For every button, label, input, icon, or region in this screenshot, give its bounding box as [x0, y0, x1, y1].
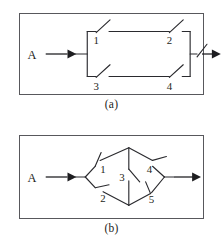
figure-panel-b: 1 2 3 4 5 A B (b) [0, 124, 223, 249]
switch-label-5-b: 5 [149, 193, 154, 205]
panel-b-circuit-diagram: 1 2 3 4 5 A B [20, 136, 203, 218]
panel-a-caption: (a) [0, 98, 223, 110]
figure-panel-a: 1 2 3 4 A B (a) [0, 0, 223, 122]
output-switch-blade-a[interactable] [197, 44, 207, 57]
switch-label-3-b: 3 [119, 171, 124, 183]
panel-a-frame: 1 2 3 4 A B [19, 13, 204, 95]
fork-upper-arm-b [85, 166, 95, 177]
upper-left-conductor-b [100, 148, 129, 161]
switch-label-4-b: 4 [147, 163, 153, 175]
fork-lower-arm-b [85, 177, 95, 188]
input-arrow-head-b [67, 173, 76, 182]
switch-4-blade[interactable] [169, 65, 183, 78]
terminal-label-a-input-b: A [27, 171, 36, 185]
switch-label-4: 4 [167, 80, 173, 92]
upper-right-conductor-b [129, 148, 153, 161]
switch-1-blade[interactable] [96, 20, 110, 33]
panel-b-frame: 1 2 3 4 5 A B [19, 135, 204, 219]
switch-3-blade[interactable] [96, 65, 110, 78]
switch-label-2-b: 2 [100, 192, 105, 204]
right-fork-upper-arm-b [153, 166, 165, 177]
panel-b-caption: (b) [0, 222, 223, 234]
output-arrow-head-b [192, 173, 201, 182]
terminal-label-a-input: A [27, 48, 36, 62]
switch-label-3: 3 [93, 80, 98, 92]
switch-4-blade-b[interactable] [153, 157, 167, 161]
switch-label-1: 1 [93, 34, 98, 46]
switch-2-blade[interactable] [169, 20, 183, 33]
lower-right-conductor-b [129, 194, 151, 206]
figure-page: 1 2 3 4 A B (a) [0, 0, 223, 249]
input-arrow-head-a [67, 50, 76, 59]
switch-3-blade-b[interactable] [129, 169, 140, 182]
output-arrow-head-a [212, 50, 221, 59]
switch-2-blade-b[interactable] [95, 185, 109, 188]
switch-5-blade-b[interactable] [146, 182, 151, 194]
lower-left-conductor-b [103, 192, 129, 206]
right-fork-lower-arm-b [152, 177, 165, 193]
switch-label-2: 2 [167, 34, 172, 46]
switch-label-1-b: 1 [100, 163, 105, 175]
panel-a-circuit-diagram: 1 2 3 4 A B [20, 14, 203, 94]
